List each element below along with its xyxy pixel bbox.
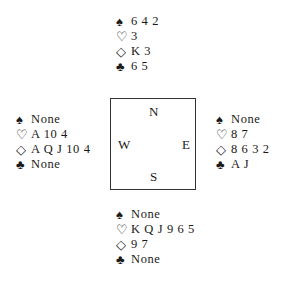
compass-box: N W E S bbox=[110, 98, 196, 190]
west-hand: ♠None ♡A 10 4 ◇A Q J 10 4 ♣None bbox=[16, 112, 90, 172]
compass-north-label: N bbox=[149, 104, 158, 120]
spade-icon: ♠ bbox=[16, 112, 29, 127]
south-hand: ♠None ♡K Q J 9 6 5 ◇9 7 ♣None bbox=[116, 207, 195, 267]
diamond-icon: ◇ bbox=[16, 142, 29, 157]
east-hand: ♠None ♡8 7 ◇8 6 3 2 ♣A J bbox=[216, 112, 270, 172]
south-diamonds: ◇9 7 bbox=[116, 237, 195, 252]
compass-east-label: E bbox=[182, 137, 190, 153]
spade-icon: ♠ bbox=[216, 112, 229, 127]
north-diamonds: ◇K 3 bbox=[116, 44, 159, 59]
east-hearts: ♡8 7 bbox=[216, 127, 270, 142]
south-clubs: ♣None bbox=[116, 252, 195, 267]
heart-icon: ♡ bbox=[216, 127, 229, 142]
north-hearts: ♡3 bbox=[116, 29, 159, 44]
club-icon: ♣ bbox=[116, 252, 129, 267]
south-hearts: ♡K Q J 9 6 5 bbox=[116, 222, 195, 237]
west-hearts: ♡A 10 4 bbox=[16, 127, 90, 142]
spade-icon: ♠ bbox=[116, 14, 129, 29]
north-spades: ♠6 4 2 bbox=[116, 14, 159, 29]
diamond-icon: ◇ bbox=[116, 237, 129, 252]
compass-west-label: W bbox=[118, 137, 130, 153]
heart-icon: ♡ bbox=[16, 127, 29, 142]
diamond-icon: ◇ bbox=[216, 142, 229, 157]
diamond-icon: ◇ bbox=[116, 44, 129, 59]
east-diamonds: ◇8 6 3 2 bbox=[216, 142, 270, 157]
heart-icon: ♡ bbox=[116, 222, 129, 237]
club-icon: ♣ bbox=[216, 157, 229, 172]
east-spades: ♠None bbox=[216, 112, 270, 127]
south-spades: ♠None bbox=[116, 207, 195, 222]
spade-icon: ♠ bbox=[116, 207, 129, 222]
north-clubs: ♣6 5 bbox=[116, 59, 159, 74]
club-icon: ♣ bbox=[116, 59, 129, 74]
north-hand: ♠6 4 2 ♡3 ◇K 3 ♣6 5 bbox=[116, 14, 159, 74]
east-clubs: ♣A J bbox=[216, 157, 270, 172]
west-spades: ♠None bbox=[16, 112, 90, 127]
west-clubs: ♣None bbox=[16, 157, 90, 172]
compass-south-label: S bbox=[150, 169, 157, 185]
club-icon: ♣ bbox=[16, 157, 29, 172]
heart-icon: ♡ bbox=[116, 29, 129, 44]
west-diamonds: ◇A Q J 10 4 bbox=[16, 142, 90, 157]
